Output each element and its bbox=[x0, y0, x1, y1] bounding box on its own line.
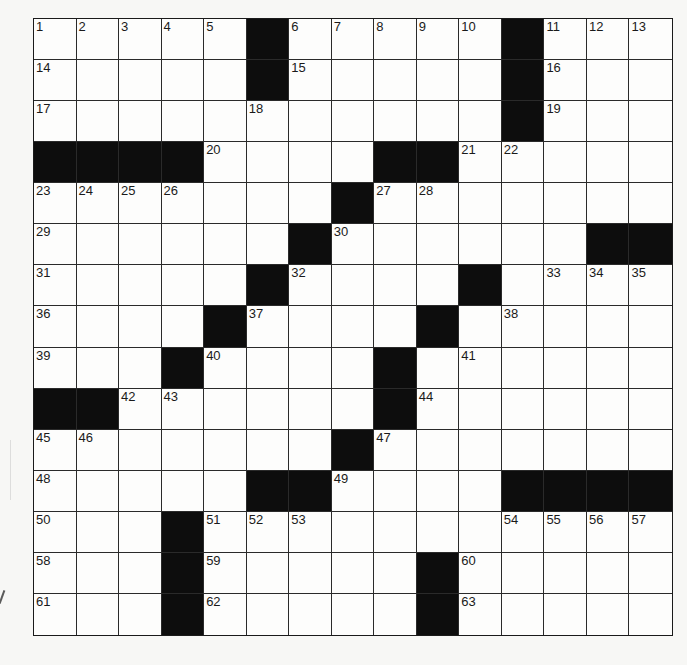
crossword-cell[interactable] bbox=[332, 142, 375, 183]
crossword-cell[interactable]: 45 bbox=[34, 430, 77, 471]
crossword-cell[interactable]: 63 bbox=[459, 594, 502, 635]
crossword-cell[interactable]: 21 bbox=[459, 142, 502, 183]
crossword-cell[interactable] bbox=[629, 306, 672, 347]
crossword-cell[interactable] bbox=[374, 594, 417, 635]
crossword-cell[interactable] bbox=[374, 553, 417, 594]
crossword-cell[interactable]: 7 bbox=[332, 19, 375, 60]
crossword-cell[interactable]: 62 bbox=[204, 594, 247, 635]
crossword-cell[interactable]: 6 bbox=[289, 19, 332, 60]
crossword-cell[interactable]: 1 bbox=[34, 19, 77, 60]
crossword-cell[interactable] bbox=[374, 101, 417, 142]
crossword-cell[interactable] bbox=[459, 101, 502, 142]
crossword-cell[interactable] bbox=[119, 471, 162, 512]
crossword-cell[interactable] bbox=[374, 224, 417, 265]
crossword-cell[interactable] bbox=[417, 348, 460, 389]
crossword-cell[interactable] bbox=[289, 430, 332, 471]
crossword-cell[interactable] bbox=[417, 430, 460, 471]
crossword-cell[interactable]: 57 bbox=[629, 512, 672, 553]
crossword-cell[interactable]: 33 bbox=[544, 265, 587, 306]
crossword-cell[interactable]: 27 bbox=[374, 183, 417, 224]
crossword-cell[interactable] bbox=[417, 512, 460, 553]
crossword-cell[interactable] bbox=[289, 553, 332, 594]
crossword-cell[interactable]: 16 bbox=[544, 60, 587, 101]
crossword-cell[interactable] bbox=[119, 553, 162, 594]
crossword-cell[interactable] bbox=[332, 594, 375, 635]
crossword-cell[interactable] bbox=[119, 60, 162, 101]
crossword-cell[interactable] bbox=[544, 348, 587, 389]
crossword-cell[interactable]: 8 bbox=[374, 19, 417, 60]
crossword-cell[interactable]: 32 bbox=[289, 265, 332, 306]
crossword-cell[interactable] bbox=[289, 101, 332, 142]
crossword-cell[interactable] bbox=[289, 183, 332, 224]
crossword-cell[interactable] bbox=[459, 471, 502, 512]
crossword-cell[interactable] bbox=[119, 224, 162, 265]
crossword-cell[interactable]: 38 bbox=[502, 306, 545, 347]
crossword-cell[interactable]: 31 bbox=[34, 265, 77, 306]
crossword-cell[interactable] bbox=[162, 60, 205, 101]
crossword-cell[interactable]: 55 bbox=[544, 512, 587, 553]
crossword-cell[interactable] bbox=[77, 101, 120, 142]
crossword-cell[interactable] bbox=[629, 553, 672, 594]
crossword-cell[interactable] bbox=[77, 306, 120, 347]
crossword-cell[interactable] bbox=[587, 142, 630, 183]
crossword-cell[interactable]: 17 bbox=[34, 101, 77, 142]
crossword-cell[interactable] bbox=[544, 594, 587, 635]
crossword-cell[interactable]: 20 bbox=[204, 142, 247, 183]
crossword-cell[interactable] bbox=[459, 306, 502, 347]
crossword-cell[interactable] bbox=[374, 471, 417, 512]
crossword-cell[interactable] bbox=[587, 183, 630, 224]
crossword-cell[interactable] bbox=[459, 430, 502, 471]
crossword-cell[interactable]: 40 bbox=[204, 348, 247, 389]
crossword-cell[interactable] bbox=[247, 594, 290, 635]
crossword-cell[interactable] bbox=[77, 348, 120, 389]
crossword-cell[interactable] bbox=[502, 265, 545, 306]
crossword-cell[interactable] bbox=[289, 306, 332, 347]
crossword-cell[interactable]: 14 bbox=[34, 60, 77, 101]
crossword-cell[interactable] bbox=[629, 430, 672, 471]
crossword-cell[interactable] bbox=[417, 101, 460, 142]
crossword-cell[interactable] bbox=[587, 306, 630, 347]
crossword-cell[interactable] bbox=[77, 60, 120, 101]
crossword-cell[interactable] bbox=[289, 389, 332, 430]
crossword-cell[interactable] bbox=[204, 389, 247, 430]
crossword-cell[interactable] bbox=[204, 224, 247, 265]
crossword-cell[interactable] bbox=[289, 142, 332, 183]
crossword-cell[interactable] bbox=[587, 430, 630, 471]
crossword-cell[interactable] bbox=[119, 265, 162, 306]
crossword-cell[interactable] bbox=[332, 306, 375, 347]
crossword-cell[interactable] bbox=[587, 594, 630, 635]
crossword-cell[interactable]: 13 bbox=[629, 19, 672, 60]
crossword-cell[interactable]: 12 bbox=[587, 19, 630, 60]
crossword-cell[interactable]: 58 bbox=[34, 553, 77, 594]
crossword-cell[interactable] bbox=[332, 60, 375, 101]
crossword-cell[interactable] bbox=[417, 265, 460, 306]
crossword-cell[interactable]: 60 bbox=[459, 553, 502, 594]
crossword-cell[interactable]: 35 bbox=[629, 265, 672, 306]
crossword-cell[interactable] bbox=[502, 553, 545, 594]
crossword-cell[interactable]: 3 bbox=[119, 19, 162, 60]
crossword-cell[interactable]: 30 bbox=[332, 224, 375, 265]
crossword-cell[interactable] bbox=[629, 183, 672, 224]
crossword-cell[interactable] bbox=[629, 594, 672, 635]
crossword-cell[interactable] bbox=[162, 471, 205, 512]
crossword-cell[interactable] bbox=[502, 430, 545, 471]
crossword-cell[interactable]: 50 bbox=[34, 512, 77, 553]
crossword-cell[interactable] bbox=[417, 60, 460, 101]
crossword-cell[interactable] bbox=[332, 101, 375, 142]
crossword-cell[interactable]: 46 bbox=[77, 430, 120, 471]
crossword-cell[interactable] bbox=[587, 348, 630, 389]
crossword-cell[interactable] bbox=[289, 348, 332, 389]
crossword-cell[interactable]: 29 bbox=[34, 224, 77, 265]
crossword-cell[interactable] bbox=[119, 512, 162, 553]
crossword-cell[interactable]: 53 bbox=[289, 512, 332, 553]
crossword-cell[interactable] bbox=[247, 142, 290, 183]
crossword-cell[interactable] bbox=[587, 60, 630, 101]
crossword-cell[interactable]: 44 bbox=[417, 389, 460, 430]
crossword-cell[interactable]: 51 bbox=[204, 512, 247, 553]
crossword-cell[interactable]: 15 bbox=[289, 60, 332, 101]
crossword-cell[interactable]: 25 bbox=[119, 183, 162, 224]
crossword-cell[interactable] bbox=[247, 224, 290, 265]
crossword-cell[interactable] bbox=[119, 101, 162, 142]
crossword-cell[interactable] bbox=[374, 306, 417, 347]
crossword-cell[interactable] bbox=[204, 60, 247, 101]
